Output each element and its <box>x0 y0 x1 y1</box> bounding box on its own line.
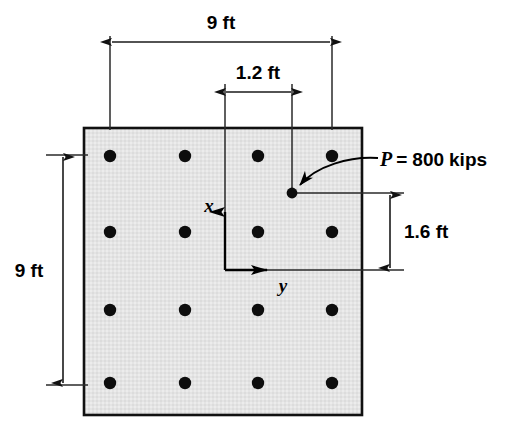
bolt <box>179 304 191 316</box>
load-point-marker <box>287 188 298 199</box>
dimension-offset-x: 1.6 ft <box>390 195 449 268</box>
dimension-label-offset-x: 1.6 ft <box>404 221 449 242</box>
dimension-label-top-width: 9 ft <box>207 12 236 33</box>
figure-canvas: 9 ft 1.2 ft 9 ft 1.6 ft <box>0 0 516 437</box>
bolt-group-figure: 9 ft 1.2 ft 9 ft 1.6 ft <box>0 0 516 437</box>
bolt <box>104 150 116 162</box>
load-label: P=800kips <box>379 148 487 170</box>
dimension-label-offset-y: 1.2 ft <box>236 62 281 83</box>
bolt <box>326 150 338 162</box>
bolt <box>104 304 116 316</box>
dimension-label-left-height: 9 ft <box>15 260 44 281</box>
load-equals: = <box>396 149 407 170</box>
load-value: 800 <box>412 149 444 170</box>
plate-body <box>84 128 362 415</box>
bolt <box>326 377 338 389</box>
bolt <box>252 226 264 238</box>
dimension-offset-y: 1.2 ft <box>226 62 291 92</box>
bolt <box>179 377 191 389</box>
load-unit: kips <box>449 149 487 170</box>
x-axis-label: x <box>203 195 214 216</box>
base-plate <box>84 128 362 415</box>
bolt <box>179 226 191 238</box>
bolt <box>326 304 338 316</box>
bolt <box>104 226 116 238</box>
bolt <box>252 304 264 316</box>
bolt <box>104 377 116 389</box>
bolt <box>252 377 264 389</box>
dimension-left-height: 9 ft <box>15 157 63 383</box>
dimension-top-width: 9 ft <box>112 12 330 42</box>
bolt <box>252 150 264 162</box>
bolt <box>179 150 191 162</box>
y-axis-label: y <box>277 275 288 296</box>
bolt <box>326 226 338 238</box>
load-symbol: P <box>379 148 393 170</box>
